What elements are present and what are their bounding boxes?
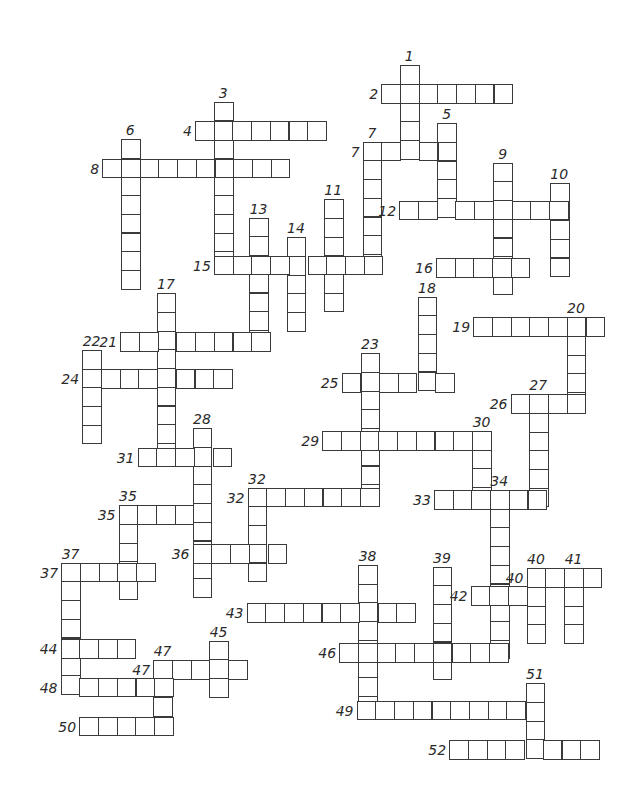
crossword-cell[interactable] bbox=[529, 413, 549, 433]
crossword-cell[interactable] bbox=[567, 355, 587, 375]
crossword-cell[interactable] bbox=[287, 312, 307, 332]
crossword-cell[interactable] bbox=[342, 373, 362, 393]
crossword-cell[interactable] bbox=[119, 524, 139, 544]
crossword-cell[interactable] bbox=[341, 488, 361, 508]
crossword-cell[interactable] bbox=[209, 659, 229, 679]
crossword-cell[interactable] bbox=[512, 201, 532, 221]
crossword-cell[interactable] bbox=[493, 219, 513, 239]
crossword-cell[interactable] bbox=[357, 701, 377, 721]
crossword-cell[interactable] bbox=[322, 431, 342, 451]
crossword-cell[interactable] bbox=[490, 527, 510, 547]
crossword-cell[interactable] bbox=[214, 177, 234, 197]
crossword-cell[interactable] bbox=[418, 334, 438, 354]
crossword-cell[interactable] bbox=[307, 121, 327, 141]
crossword-cell[interactable] bbox=[450, 701, 470, 721]
crossword-cell[interactable] bbox=[209, 678, 229, 698]
crossword-cell[interactable] bbox=[433, 660, 453, 680]
crossword-cell[interactable] bbox=[138, 369, 158, 389]
crossword-cell[interactable] bbox=[98, 717, 118, 737]
crossword-cell[interactable] bbox=[101, 369, 121, 389]
crossword-cell[interactable] bbox=[177, 159, 197, 179]
crossword-cell[interactable] bbox=[433, 623, 453, 643]
crossword-cell[interactable] bbox=[567, 336, 587, 356]
crossword-cell[interactable] bbox=[435, 373, 455, 393]
crossword-cell[interactable] bbox=[473, 317, 493, 337]
crossword-cell[interactable] bbox=[79, 678, 99, 698]
crossword-cell[interactable] bbox=[117, 639, 137, 659]
crossword-cell[interactable] bbox=[378, 603, 398, 623]
crossword-cell[interactable] bbox=[119, 580, 139, 600]
crossword-cell[interactable] bbox=[586, 317, 606, 337]
crossword-cell[interactable] bbox=[527, 587, 547, 607]
crossword-cell[interactable] bbox=[214, 195, 234, 215]
crossword-cell[interactable] bbox=[251, 256, 271, 276]
crossword-cell[interactable] bbox=[138, 448, 158, 468]
crossword-cell[interactable] bbox=[289, 121, 309, 141]
crossword-cell[interactable] bbox=[361, 372, 381, 392]
crossword-cell[interactable] bbox=[99, 563, 119, 583]
crossword-cell[interactable] bbox=[437, 179, 457, 199]
crossword-cell[interactable] bbox=[434, 490, 454, 510]
crossword-cell[interactable] bbox=[545, 568, 565, 588]
crossword-cell[interactable] bbox=[61, 656, 81, 676]
crossword-cell[interactable] bbox=[437, 123, 457, 143]
crossword-cell[interactable] bbox=[474, 201, 494, 221]
crossword-cell[interactable] bbox=[157, 406, 177, 426]
crossword-cell[interactable] bbox=[214, 256, 234, 276]
crossword-cell[interactable] bbox=[398, 373, 418, 393]
crossword-cell[interactable] bbox=[490, 509, 510, 529]
crossword-cell[interactable] bbox=[471, 490, 491, 510]
crossword-cell[interactable] bbox=[455, 201, 475, 221]
crossword-cell[interactable] bbox=[528, 490, 548, 510]
crossword-cell[interactable] bbox=[435, 431, 455, 451]
crossword-cell[interactable] bbox=[153, 697, 173, 717]
crossword-cell[interactable] bbox=[456, 84, 476, 104]
crossword-cell[interactable] bbox=[511, 317, 531, 337]
crossword-cell[interactable] bbox=[416, 431, 436, 451]
crossword-cell[interactable] bbox=[468, 740, 488, 760]
crossword-cell[interactable] bbox=[270, 121, 290, 141]
crossword-cell[interactable] bbox=[82, 406, 102, 426]
crossword-cell[interactable] bbox=[102, 159, 122, 179]
crossword-cell[interactable] bbox=[117, 678, 137, 698]
crossword-cell[interactable] bbox=[230, 544, 250, 564]
crossword-cell[interactable] bbox=[121, 270, 141, 290]
crossword-cell[interactable] bbox=[323, 488, 343, 508]
crossword-cell[interactable] bbox=[308, 256, 328, 276]
crossword-cell[interactable] bbox=[509, 490, 529, 510]
crossword-cell[interactable] bbox=[437, 198, 457, 218]
crossword-cell[interactable] bbox=[249, 311, 269, 331]
crossword-cell[interactable] bbox=[121, 233, 141, 253]
crossword-cell[interactable] bbox=[363, 235, 383, 255]
crossword-cell[interactable] bbox=[511, 394, 531, 414]
crossword-cell[interactable] bbox=[284, 603, 304, 623]
crossword-cell[interactable] bbox=[324, 293, 344, 313]
crossword-cell[interactable] bbox=[529, 432, 549, 452]
crossword-cell[interactable] bbox=[117, 717, 137, 737]
crossword-cell[interactable] bbox=[233, 159, 253, 179]
crossword-cell[interactable] bbox=[358, 621, 378, 641]
crossword-cell[interactable] bbox=[265, 603, 285, 623]
crossword-cell[interactable] bbox=[493, 200, 513, 220]
crossword-cell[interactable] bbox=[324, 218, 344, 238]
crossword-cell[interactable] bbox=[82, 350, 102, 370]
crossword-cell[interactable] bbox=[157, 349, 177, 369]
crossword-cell[interactable] bbox=[61, 563, 81, 583]
crossword-cell[interactable] bbox=[82, 425, 102, 445]
crossword-cell[interactable] bbox=[418, 297, 438, 317]
crossword-cell[interactable] bbox=[361, 409, 381, 429]
crossword-cell[interactable] bbox=[437, 161, 457, 181]
crossword-cell[interactable] bbox=[488, 701, 508, 721]
crossword-cell[interactable] bbox=[490, 490, 510, 510]
crossword-cell[interactable] bbox=[285, 488, 305, 508]
crossword-cell[interactable] bbox=[214, 214, 234, 234]
crossword-cell[interactable] bbox=[375, 701, 395, 721]
crossword-cell[interactable] bbox=[251, 121, 271, 141]
crossword-cell[interactable] bbox=[215, 159, 235, 179]
crossword-cell[interactable] bbox=[248, 525, 268, 545]
crossword-cell[interactable] bbox=[526, 721, 546, 741]
crossword-cell[interactable] bbox=[358, 677, 378, 697]
crossword-cell[interactable] bbox=[119, 543, 139, 563]
crossword-cell[interactable] bbox=[453, 431, 473, 451]
crossword-cell[interactable] bbox=[61, 581, 81, 601]
